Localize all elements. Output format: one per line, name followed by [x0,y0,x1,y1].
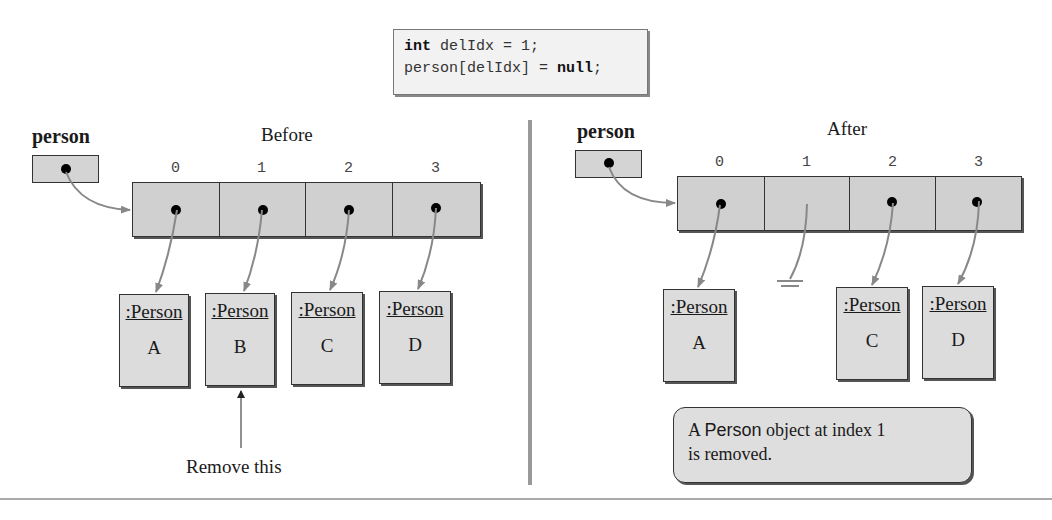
arrows-overlay [0,0,1052,520]
null-ground-icon [777,281,803,286]
reference-arrows [66,167,979,292]
